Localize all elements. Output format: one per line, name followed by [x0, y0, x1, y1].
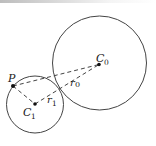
- segment-c1-c0-radii: [35, 65, 99, 105]
- segment-p-c0: [13, 65, 99, 87]
- label-p: P: [7, 72, 16, 85]
- label-c1-subscript: 1: [31, 112, 36, 121]
- segment-p-c1: [13, 86, 35, 104]
- label-r1-subscript: 1: [52, 99, 57, 108]
- tangent-circles-diagram: P C 0 C 1 r 0 r 1: [0, 0, 156, 146]
- label-c0-subscript: 0: [104, 58, 109, 67]
- point-c1: [33, 102, 37, 106]
- label-r0-subscript: 0: [75, 80, 80, 89]
